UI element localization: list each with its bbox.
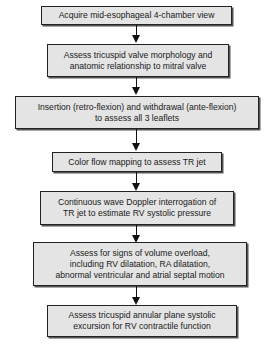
arrow-down-icon [132, 35, 140, 43]
step-1-line-1: Acquire mid-esophageal 4-chamber view [59, 10, 215, 21]
step-7-box: Assess tricuspid annular plane systolic … [47, 305, 237, 337]
step-3-line-2: to assess all 3 leaflets [95, 113, 179, 124]
step-4-box: Color flow mapping to assess TR jet [52, 152, 222, 172]
step-5-box: Continuous wave Doppler interrogation of… [40, 191, 234, 225]
arrow-down-icon [132, 297, 140, 305]
step-6-line-3: abnormal ventricular and atrial septal m… [55, 270, 224, 281]
step-6-line-2: including RV dilatation, RA dilatation, [70, 259, 210, 270]
step-7-line-2: excursion for RV contractile function [73, 321, 210, 332]
step-5-line-1: Continuous wave Doppler interrogation of [58, 197, 216, 208]
arrow-down-icon [132, 143, 140, 151]
arrow-down-icon [132, 87, 140, 95]
step-1-box: Acquire mid-esophageal 4-chamber view [41, 6, 232, 25]
step-4-line-1: Color flow mapping to assess TR jet [68, 157, 205, 168]
step-2-box: Assess tricuspid valve morphology and an… [47, 44, 229, 77]
step-6-box: Assess for signs of volume overload, inc… [33, 242, 247, 286]
step-3-box: Insertion (retro-flexion) and withdrawal… [15, 96, 259, 129]
step-5-line-2: TR jet to estimate RV systolic pressure [63, 208, 211, 219]
step-2-line-2: anatomic relationship to mitral valve [70, 61, 207, 72]
arrow-down-icon [132, 183, 140, 191]
step-7-line-1: Assess tricuspid annular plane systolic [68, 310, 215, 321]
step-6-line-1: Assess for signs of volume overload, [70, 248, 210, 259]
step-3-line-1: Insertion (retro-flexion) and withdrawal… [38, 102, 237, 113]
step-2-line-1: Assess tricuspid valve morphology and [64, 50, 213, 61]
